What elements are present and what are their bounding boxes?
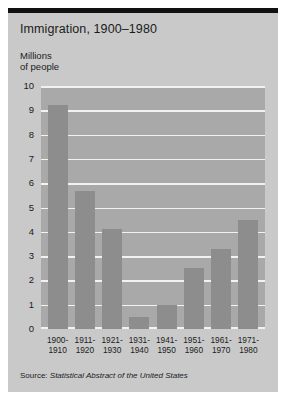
bar-slot — [44, 86, 71, 329]
x-axis-tick-label-line-2: 1940 — [126, 346, 153, 356]
x-axis-tick-label-line-2: 1910 — [44, 346, 71, 356]
x-axis-tick-label: 1921-1930 — [99, 336, 126, 355]
bar — [102, 229, 122, 329]
x-axis-tick-label: 1911-1920 — [71, 336, 98, 355]
y-axis-tick-label: 0 — [10, 323, 34, 334]
x-axis-tick-label: 1931-1940 — [126, 336, 153, 355]
plot-area — [41, 86, 265, 329]
y-axis-tick-label: 4 — [10, 226, 34, 237]
y-axis-tick-label: 3 — [10, 250, 34, 261]
immigration-bar-chart-figure: Immigration, 1900–1980 Millions of peopl… — [0, 0, 286, 400]
x-axis-tick-label: 1941-1950 — [153, 336, 180, 355]
source-label: Source: — [20, 371, 48, 380]
y-axis-title: Millions of people — [20, 50, 59, 72]
bar-slot — [126, 86, 153, 329]
bar-slot — [235, 86, 262, 329]
y-axis-tick-label: 10 — [10, 80, 34, 91]
x-axis-tick-label-line-2: 1930 — [99, 346, 126, 356]
bar-slot — [71, 86, 98, 329]
y-axis-title-line-2: of people — [20, 61, 59, 72]
bar-series — [41, 86, 265, 329]
top-rule — [8, 8, 278, 13]
y-axis-tick-label: 1 — [10, 299, 34, 310]
x-axis-tick-labels: 1900-19101911-19201921-19301931-19401941… — [41, 336, 265, 355]
x-axis-tick-label: 1951-1960 — [180, 336, 207, 355]
x-axis-tick-label-line-2: 1970 — [208, 346, 235, 356]
bar — [157, 305, 177, 329]
x-axis-tick-label: 1961-1970 — [208, 336, 235, 355]
bar-slot — [208, 86, 235, 329]
x-axis-tick-label: 1971-1980 — [235, 336, 262, 355]
bar-slot — [153, 86, 180, 329]
bar — [129, 317, 149, 329]
bar-slot — [99, 86, 126, 329]
page-title: Immigration, 1900–1980 — [20, 22, 157, 36]
bar — [238, 220, 258, 329]
bar-slot — [180, 86, 207, 329]
x-axis-tick-label-line-2: 1980 — [235, 346, 262, 356]
y-axis-tick-label: 7 — [10, 153, 34, 164]
bar — [48, 105, 68, 329]
x-axis-tick-label-line-2: 1920 — [71, 346, 98, 356]
y-axis-tick-label: 5 — [10, 202, 34, 213]
x-axis-tick-label: 1900-1910 — [44, 336, 71, 355]
y-axis-tick-label: 8 — [10, 129, 34, 140]
x-axis-tick-label-line-2: 1960 — [180, 346, 207, 356]
source-publication: Statistical Abstract of the United State… — [50, 371, 188, 380]
y-axis-tick-label: 2 — [10, 274, 34, 285]
y-axis-tick-label: 9 — [10, 104, 34, 115]
x-axis-tick-label-line-2: 1950 — [153, 346, 180, 356]
y-axis-tick-label: 6 — [10, 177, 34, 188]
bar — [75, 191, 95, 330]
source-note: Source: Statistical Abstract of the Unit… — [20, 371, 188, 380]
bar — [184, 268, 204, 329]
bar — [211, 249, 231, 329]
y-axis-title-line-1: Millions — [20, 50, 59, 61]
